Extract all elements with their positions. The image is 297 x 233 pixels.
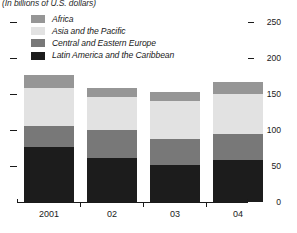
y-tick-mark-left-50: [10, 166, 17, 167]
bar-segment-africa: [24, 75, 74, 88]
bar-segment-central-eastern-europe: [87, 130, 137, 158]
bar-03: [150, 92, 200, 202]
x-axis-label-04: 04: [213, 209, 263, 219]
bar-segment-africa: [150, 92, 200, 101]
y-tick-label: 250: [259, 17, 281, 27]
plot-area: 250 200 150 100 50 0: [0, 0, 297, 233]
bar-2001: [24, 75, 74, 202]
bar-segment-asia-pacific: [150, 101, 200, 139]
y-axis-tick-200: 200: [248, 53, 294, 63]
x-axis-baseline: [17, 202, 248, 203]
bar-segment-latin-america-caribbean: [87, 158, 137, 202]
x-axis-right-cap: [247, 199, 248, 203]
y-tick-mark-left-250: [10, 22, 17, 23]
stacked-bar-chart: (In billions of U.S. dollars) Africa Asi…: [0, 0, 297, 233]
x-axis-label-02: 02: [87, 209, 137, 219]
bar-segment-central-eastern-europe: [213, 134, 263, 160]
x-axis-minor-tick: [206, 203, 207, 207]
bar-segment-asia-pacific: [24, 88, 74, 126]
y-tick-dash-icon: [248, 22, 254, 23]
x-axis-minor-tick: [143, 203, 144, 207]
y-tick-dash-icon: [248, 58, 254, 59]
bar-segment-africa: [87, 88, 137, 97]
bar-segment-central-eastern-europe: [24, 126, 74, 147]
y-tick-mark-left-100: [10, 130, 17, 131]
bar-segment-asia-pacific: [213, 94, 263, 134]
bar-02: [87, 88, 137, 202]
bar-segment-central-eastern-europe: [150, 139, 200, 165]
x-axis-left-cap: [17, 199, 18, 203]
bar-segment-asia-pacific: [87, 97, 137, 130]
bar-segment-africa: [213, 82, 263, 94]
y-tick-label: 200: [259, 53, 281, 63]
x-axis-minor-tick: [80, 203, 81, 207]
y-tick-mark-left-150: [10, 94, 17, 95]
bar-04: [213, 82, 263, 202]
x-axis-label-2001: 2001: [24, 209, 74, 219]
bar-segment-latin-america-caribbean: [150, 165, 200, 202]
y-axis-tick-250: 250: [248, 17, 294, 27]
bar-segment-latin-america-caribbean: [24, 147, 74, 202]
y-tick-mark-left-200: [10, 58, 17, 59]
bar-segment-latin-america-caribbean: [213, 160, 263, 202]
x-axis-label-03: 03: [150, 209, 200, 219]
